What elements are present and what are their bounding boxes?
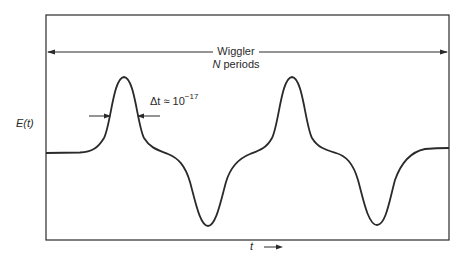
pulse-width-label: Δt ≈ 10−17 (150, 92, 198, 107)
x-axis-label: t (250, 240, 253, 252)
wiggler-label: Wiggler (0, 45, 472, 57)
time-arrow-icon (276, 245, 283, 250)
waveform-curve (46, 77, 449, 226)
y-axis-label: E(t) (16, 117, 34, 129)
diagram-canvas (0, 0, 472, 274)
periods-label: N periods (0, 58, 472, 70)
